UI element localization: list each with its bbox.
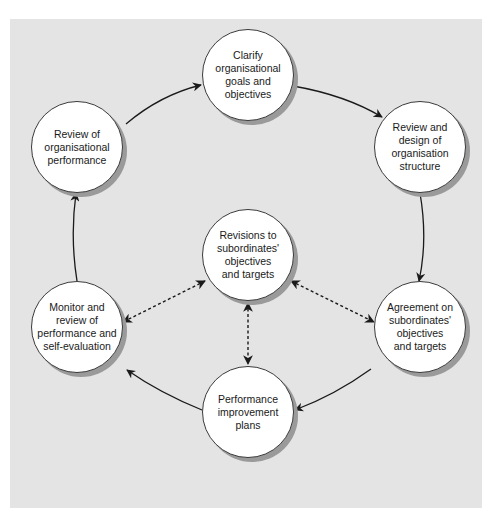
node-agreement-objectives: Agreement on subordinates' objectives an… <box>374 281 466 373</box>
node-label: Clarify organisational goals and objecti… <box>211 49 284 101</box>
arrow-agreement-to-performance-plans <box>295 369 371 410</box>
arrow-performance-plans-to-monitor <box>127 370 202 410</box>
node-performance-improvement-plans: Performance improvement plans <box>202 366 294 458</box>
node-monitor-review: Monitor and review of performance and se… <box>31 281 123 373</box>
dashed-arrow-revisions-monitor <box>123 281 205 322</box>
node-label: Review and design of organisation struct… <box>387 121 452 173</box>
arrow-review-org-to-clarify <box>126 85 201 124</box>
node-label: Performance improvement plans <box>214 393 283 432</box>
node-label: Revisions to subordinates' objectives an… <box>213 229 283 281</box>
node-revisions-center: Revisions to subordinates' objectives an… <box>202 209 294 301</box>
node-clarify-goals: Clarify organisational goals and objecti… <box>202 29 294 121</box>
node-label: Agreement on subordinates' objectives an… <box>383 301 457 353</box>
arrow-clarify-to-review-design <box>293 86 382 117</box>
node-label: Review of organisational performance <box>40 128 113 167</box>
node-review-org-performance: Review of organisational performance <box>31 101 123 193</box>
node-label: Monitor and review of performance and se… <box>33 301 120 353</box>
node-review-design-structure: Review and design of organisation struct… <box>374 101 466 193</box>
arrow-monitor-to-review-org <box>73 193 77 281</box>
dashed-arrow-revisions-agreement <box>291 281 374 322</box>
arrow-review-design-to-agreement <box>419 193 424 281</box>
